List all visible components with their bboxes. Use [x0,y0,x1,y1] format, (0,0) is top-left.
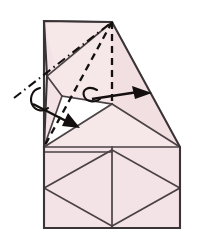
face-bottom-right-square [112,147,180,228]
origami-figure [0,0,205,245]
origami-diagram: Origami folding step diagram Paper model… [0,0,205,245]
face-bottom-left-square [44,147,112,228]
